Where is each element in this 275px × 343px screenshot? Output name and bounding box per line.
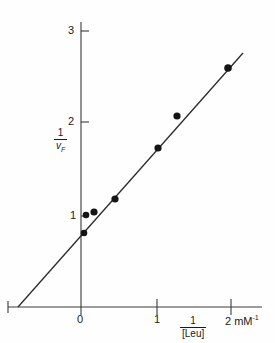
y-axis-fraction: 1 vF xyxy=(54,128,67,153)
y-axis-title: 1 vF xyxy=(54,128,67,153)
x-axis-title: 1 [Leu] xyxy=(180,316,206,339)
figure-container: 3 2 1 0 1 2 mM-1 1 vF 1 [Leu] xyxy=(0,0,275,343)
x-axis-fraction: 1 [Leu] xyxy=(180,316,206,339)
data-point xyxy=(111,195,118,202)
x-tick-label-2-text: 2 mM xyxy=(225,315,253,327)
y-tick-label-2: 2 xyxy=(68,116,74,127)
x-axis-denominator: [Leu] xyxy=(180,327,206,340)
x-tick-label-2-with-unit: 2 mM-1 xyxy=(225,314,259,327)
data-point xyxy=(81,230,88,237)
data-point xyxy=(154,144,161,151)
y-tick-label-1: 1 xyxy=(70,210,76,221)
x-unit-exponent: -1 xyxy=(253,314,259,321)
data-point xyxy=(90,208,97,215)
fit-line xyxy=(18,53,243,307)
y-axis-denominator: vF xyxy=(54,139,67,153)
y-tick-label-3: 3 xyxy=(68,25,74,36)
x-tick-label-1: 1 xyxy=(154,314,160,325)
x-tick-label-0: 0 xyxy=(77,314,83,325)
y-axis-denominator-subscript: F xyxy=(61,146,65,153)
x-axis-numerator: 1 xyxy=(180,316,206,327)
y-axis-numerator: 1 xyxy=(54,128,67,139)
data-point xyxy=(83,212,90,219)
data-point xyxy=(173,112,180,119)
plot-canvas xyxy=(0,0,275,343)
data-point xyxy=(224,64,232,72)
